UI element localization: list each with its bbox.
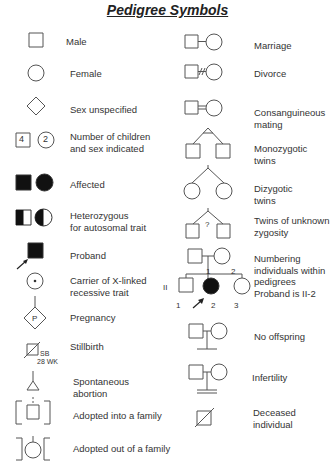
- label-unknown-zygosity: Twins of unknown zygosity: [254, 215, 330, 238]
- label-deceased: Deceased individual: [253, 407, 296, 430]
- female-circle-icon: [27, 64, 45, 82]
- label-sex-unspecified: Sex unspecified: [70, 104, 137, 116]
- proband-icon: [14, 242, 46, 272]
- page-title: Pedigree Symbols: [0, 2, 335, 18]
- stillbirth-annotation-sb: SB: [40, 350, 49, 358]
- no-offspring-icon: [188, 323, 234, 353]
- label-number-of-children: Number of children and sex indicated: [70, 131, 150, 154]
- infertility-icon: [188, 364, 234, 396]
- label-male: Male: [66, 36, 87, 48]
- pregnancy-letter: P: [32, 313, 37, 325]
- adopted-out-icon: [12, 436, 54, 462]
- gen2-number-1: 1: [176, 300, 180, 312]
- label-female: Female: [70, 68, 102, 80]
- monozygotic-twins-icon: [185, 126, 231, 162]
- affected-male-icon: [15, 174, 32, 191]
- label-adopted-out: Adopted out of a family: [73, 443, 170, 455]
- spontaneous-abortion-icon: [25, 371, 41, 393]
- divorce-icon: [184, 63, 230, 81]
- proband-arrow-icon: [192, 297, 206, 309]
- deceased-icon: [194, 407, 216, 429]
- consanguineous-icon: [184, 99, 230, 117]
- generation-label-2: II: [163, 282, 167, 294]
- gen2-number-2: 2: [211, 300, 215, 312]
- marriage-icon: [184, 33, 230, 51]
- label-marriage: Marriage: [254, 40, 292, 52]
- label-heterozygous: Heterozygous for autosomal trait: [70, 210, 146, 233]
- heterozygous-female-icon: [34, 208, 53, 227]
- label-dizygotic: Dizygotic twins: [254, 183, 293, 206]
- dizygotic-twins-icon: [184, 165, 232, 201]
- stillbirth-annotation-weeks: 28 WK: [37, 358, 58, 366]
- label-consanguineous: Consanguineous mating: [254, 107, 325, 130]
- label-numbering: Numbering individuals within pedigrees P…: [254, 253, 325, 299]
- affected-female-icon: [35, 173, 54, 192]
- label-carrier: Carrier of X-linked recessive trait: [70, 275, 147, 298]
- label-spontaneous-abortion: Spontaneous abortion: [73, 376, 129, 399]
- label-monozygotic: Monozygotic twins: [254, 143, 307, 166]
- label-proband: Proband: [70, 250, 106, 262]
- label-pregnancy: Pregnancy: [70, 312, 115, 324]
- diamond-icon: [26, 96, 46, 116]
- label-divorce: Divorce: [254, 68, 286, 80]
- gen1-number-2: 2: [231, 266, 235, 278]
- adopted-into-icon: [14, 397, 52, 427]
- question-mark: ?: [205, 219, 209, 231]
- label-stillbirth: Stillbirth: [70, 341, 104, 353]
- gen1-number-1: 1: [206, 266, 210, 278]
- gen2-number-3: 3: [234, 300, 238, 312]
- male-square-icon: [28, 32, 44, 48]
- label-affected: Affected: [70, 179, 105, 191]
- female-count: 2: [43, 134, 48, 146]
- stillbirth-icon: [22, 340, 42, 360]
- label-adopted-into: Adopted into a family: [73, 410, 162, 422]
- numbering-pedigree-icon: [176, 248, 251, 300]
- label-infertility: Infertility: [252, 372, 287, 384]
- heterozygous-male-icon: [15, 209, 32, 226]
- label-no-offspring: No offspring: [254, 331, 305, 343]
- carrier-female-icon: [26, 272, 44, 290]
- male-count: 4: [19, 134, 24, 146]
